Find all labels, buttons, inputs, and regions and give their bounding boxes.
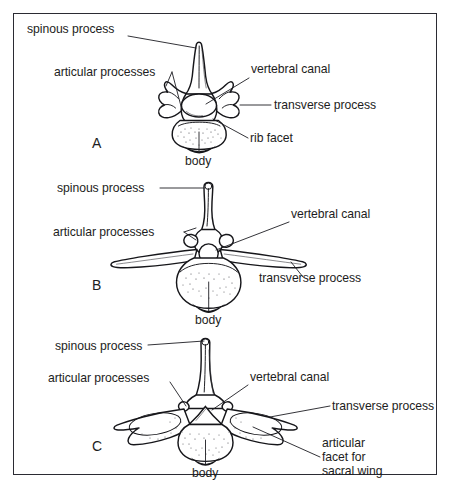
label-spinous-process-c: spinous process [55, 339, 142, 353]
label-articular-processes-c: articular processes [48, 371, 149, 385]
figure-root: spinous process articular processes vert… [0, 0, 454, 496]
label-spinous-process-b: spinous process [57, 181, 144, 195]
panel-b: spinous process articular processes vert… [53, 181, 370, 327]
leader-spinous-process-a [128, 36, 196, 48]
panel-letter-b: B [92, 277, 101, 293]
panel-letter-c: C [92, 438, 102, 454]
panel-letter-a: A [92, 135, 102, 151]
label-body-b: body [195, 313, 222, 327]
leader-articular-processes-b-right [184, 228, 196, 232]
label-vertebral-canal-c: vertebral canal [250, 370, 329, 384]
label-articular-processes-b: articular processes [53, 225, 154, 239]
leader-articular-processes-c [170, 382, 186, 406]
articular-process-right-b [219, 234, 233, 247]
label-body-a: body [185, 154, 212, 168]
label-spinous-process-a: spinous process [27, 22, 114, 36]
label-rib-facet-a: rib facet [250, 131, 294, 145]
vertebral-canal-shape-a [182, 94, 217, 117]
label-body-c: body [192, 466, 219, 480]
panel-c: spinous process articular processes vert… [48, 338, 434, 480]
label-articular-facet-line2-c: facet for [322, 450, 366, 464]
leader-spinous-process-c [148, 341, 204, 345]
panel-a: spinous process articular processes vert… [27, 22, 376, 168]
label-vertebral-canal-a: vertebral canal [251, 62, 330, 76]
label-articular-processes-a: articular processes [54, 65, 155, 79]
vertebrae-diagram: spinous process articular processes vert… [0, 0, 454, 496]
label-transverse-process-a: transverse process [274, 98, 376, 112]
label-articular-facet-line3-c: sacral wing [322, 464, 382, 478]
label-articular-facet-line1-c: articular [322, 436, 365, 450]
label-vertebral-canal-b: vertebral canal [291, 207, 370, 221]
leader-transverse-process-c [270, 406, 330, 417]
label-transverse-process-c: transverse process [332, 399, 434, 413]
label-transverse-process-b: transverse process [259, 271, 361, 285]
